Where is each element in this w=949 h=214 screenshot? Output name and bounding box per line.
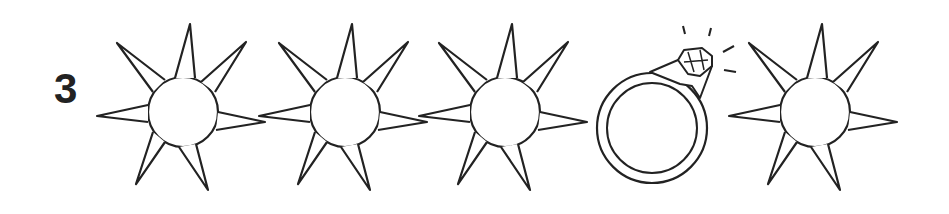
diamond-ring-icon xyxy=(597,26,736,183)
sequence-illustration xyxy=(0,0,949,214)
sun-icon-4 xyxy=(729,24,897,190)
sun-icon-2 xyxy=(259,24,427,190)
sun-icon-3 xyxy=(419,24,587,190)
sun-icon-1 xyxy=(97,24,265,190)
